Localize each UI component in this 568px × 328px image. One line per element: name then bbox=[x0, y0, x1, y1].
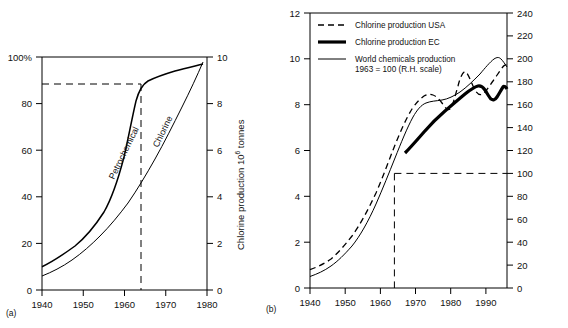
panel-a-tag: (a) bbox=[6, 308, 17, 318]
panel-b-ytick-r-120: 120 bbox=[517, 145, 533, 156]
panel-b-ytick-12: 12 bbox=[289, 8, 300, 19]
panel-a-label-petrochemical: Petrochemical bbox=[107, 125, 141, 181]
panel-a-xtick-1940: 1940 bbox=[31, 299, 52, 310]
panel-a-ytick-40: 40 bbox=[21, 191, 32, 202]
panel-b-tag-label: (b) bbox=[266, 304, 276, 314]
panel-a-ytick-r-10: 10 bbox=[217, 52, 228, 63]
chart-panel-b: 0 2 4 6 8 10 12 bbox=[284, 0, 568, 328]
panel-b-ytick-6: 6 bbox=[295, 145, 300, 156]
panel-a-xtick-1960: 1960 bbox=[114, 299, 135, 310]
panel-b-svg: 0 2 4 6 8 10 12 bbox=[284, 0, 568, 328]
panel-a-curve-chlorine bbox=[42, 62, 203, 276]
panel-b-ytick-0: 0 bbox=[295, 283, 300, 294]
panel-b-ytick-r-20: 20 bbox=[517, 260, 528, 271]
legend-label-world-chemicals-line2: 1963 = 100 (R.H. scale) bbox=[355, 65, 442, 74]
panel-a-right-axis-title-part2: tonnes bbox=[235, 119, 246, 150]
panel-a-ytick-r-0: 0 bbox=[217, 285, 222, 296]
panel-b-ytick-r-220: 220 bbox=[517, 30, 533, 41]
panel-b-xtick-1960: 1960 bbox=[370, 297, 391, 308]
panel-b-ytick-r-180: 180 bbox=[517, 76, 533, 87]
panel-b-xtick-1950: 1950 bbox=[335, 297, 356, 308]
panel-a-ytick-r-6: 6 bbox=[217, 145, 222, 156]
panel-b-xtick-1990: 1990 bbox=[475, 297, 496, 308]
panel-a-xtick-1950: 1950 bbox=[73, 299, 94, 310]
panel-b-curve-world-chemicals bbox=[310, 58, 507, 277]
panel-b-legend: Chlorine production USA Chlorine product… bbox=[318, 21, 456, 74]
panel-a-ytick-0: 0 bbox=[27, 285, 32, 296]
panel-b-left-axis-ticks: 0 2 4 6 8 10 12 bbox=[289, 8, 310, 294]
panel-a-ytick-r-4: 4 bbox=[217, 191, 222, 202]
panel-b-ytick-r-100: 100 bbox=[517, 168, 533, 179]
panel-b-curve-chlorine-ec bbox=[405, 86, 507, 153]
panel-a-right-axis-ticks: 0 2 4 6 8 10 bbox=[207, 52, 228, 296]
panel-a-x-axis-ticks: 1940 1950 1960 1970 1980 bbox=[31, 290, 217, 310]
legend-label-chlorine-ec: Chlorine production EC bbox=[355, 38, 440, 47]
panel-a-svg: 0 20 40 60 80 100% 0 2 4 6 8 10 bbox=[0, 0, 284, 328]
panel-b-ytick-r-200: 200 bbox=[517, 53, 533, 64]
panel-a-left-axis-ticks: 0 20 40 60 80 100% bbox=[8, 52, 42, 296]
panel-a-right-axis-title-part1: Chlorine production 10 bbox=[235, 154, 246, 250]
panel-b-ytick-r-0: 0 bbox=[517, 283, 522, 294]
chart-panel-a: 0 20 40 60 80 100% 0 2 4 6 8 10 bbox=[0, 0, 284, 328]
panel-b-xtick-1940: 1940 bbox=[299, 297, 320, 308]
legend-label-world-chemicals: World chemicals production bbox=[355, 55, 456, 64]
panel-b-ytick-10: 10 bbox=[289, 53, 300, 64]
figure-container: 0 20 40 60 80 100% 0 2 4 6 8 10 bbox=[0, 0, 568, 328]
panel-b-ytick-2: 2 bbox=[295, 237, 300, 248]
panel-b-ytick-r-240: 240 bbox=[517, 8, 533, 19]
panel-a-ytick-100: 100% bbox=[8, 52, 33, 63]
panel-b-reference-lines bbox=[394, 173, 507, 288]
panel-a-ytick-80: 80 bbox=[21, 98, 32, 109]
panel-b-ytick-r-140: 140 bbox=[517, 122, 533, 133]
panel-b-x-axis-ticks: 1940 1950 1960 1970 1980 1990 bbox=[299, 288, 496, 308]
panel-a-xtick-1970: 1970 bbox=[155, 299, 176, 310]
panel-b-ytick-r-160: 160 bbox=[517, 99, 533, 110]
panel-a-label-chlorine: Chlorine bbox=[151, 114, 175, 149]
panel-b-xtick-1970: 1970 bbox=[405, 297, 426, 308]
panel-a-ytick-r-8: 8 bbox=[217, 98, 222, 109]
panel-a-ytick-r-2: 2 bbox=[217, 238, 222, 249]
panel-b-ytick-8: 8 bbox=[295, 99, 300, 110]
panel-a-ytick-60: 60 bbox=[21, 145, 32, 156]
panel-b-ytick-r-40: 40 bbox=[517, 237, 528, 248]
panel-a-ytick-20: 20 bbox=[21, 238, 32, 249]
panel-b-xtick-1980: 1980 bbox=[440, 297, 461, 308]
panel-a-xtick-1980: 1980 bbox=[196, 299, 217, 310]
panel-b-curve-chlorine-usa bbox=[310, 65, 507, 270]
panel-b-ytick-r-80: 80 bbox=[517, 191, 528, 202]
panel-b-ytick-4: 4 bbox=[295, 191, 300, 202]
panel-b-ytick-r-60: 60 bbox=[517, 214, 528, 225]
legend-label-chlorine-usa: Chlorine production USA bbox=[355, 21, 446, 30]
panel-a-axes bbox=[42, 57, 207, 290]
panel-a-right-axis-title: Chlorine production 106 tonnes bbox=[234, 119, 246, 250]
panel-b-right-axis-ticks: 0 20 40 60 80 100 120 140 160 180 200 22… bbox=[507, 8, 533, 294]
